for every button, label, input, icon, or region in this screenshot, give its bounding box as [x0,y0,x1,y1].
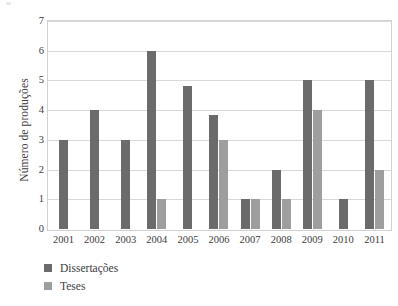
x-tick-label-2011: 2011 [359,233,390,246]
bar-teses-2007 [251,199,260,229]
bar-teses-2008 [282,199,291,229]
y-tick-label-4: 4 [22,104,44,115]
y-tick-label-5: 5 [22,74,44,85]
bar-dissertacoes-2001 [59,140,68,229]
x-tick-label-2001: 2001 [48,233,79,246]
x-tick-label-2008: 2008 [266,233,297,246]
bar-group-2003 [110,21,141,229]
bar-teses-2006 [219,140,228,229]
bar-dissertacoes-2002 [90,110,99,229]
x-tick-label-2002: 2002 [79,233,110,246]
bar-teses-2011 [375,170,384,229]
legend-swatch-teses [44,282,52,290]
legend-label: Teses [60,280,85,293]
y-tick-label-6: 6 [22,45,44,56]
x-tick-label-2007: 2007 [235,233,266,246]
x-tick-label-2003: 2003 [110,233,141,246]
bar-group-2001 [48,21,79,229]
bars-layer [48,21,390,229]
bar-group-2008 [266,21,297,229]
bar-dissertacoes-2011 [365,80,374,229]
bar-group-2002 [79,21,110,229]
y-tick-label-2: 2 [22,164,44,175]
bar-dissertacoes-2010 [339,199,348,229]
x-tick-label-2004: 2004 [141,233,172,246]
legend-item-teses[interactable]: Teses [44,277,118,295]
bar-teses-2004 [157,199,166,229]
bar-group-2009 [297,21,328,229]
bar-dissertacoes-2006 [209,115,218,229]
scan-artifact-speck [6,2,11,5]
y-tick-label-7: 7 [22,15,44,26]
legend-label: Dissertações [60,262,118,275]
x-tick-label-2005: 2005 [172,233,203,246]
bar-group-2005 [172,21,203,229]
bar-dissertacoes-2007 [241,199,250,229]
x-axis-tick-labels: 2001200220032004200520062007200820092010… [48,233,390,249]
bar-group-2011 [359,21,390,229]
x-tick-label-2006: 2006 [203,233,234,246]
chart-legend: DissertaçõesTeses [44,259,118,295]
bar-dissertacoes-2004 [147,51,156,229]
legend-swatch-dissertacoes [44,264,52,272]
x-tick-label-2010: 2010 [328,233,359,246]
bar-teses-2009 [313,110,322,229]
bar-group-2004 [141,21,172,229]
bar-dissertacoes-2009 [303,80,312,229]
legend-item-dissertaes[interactable]: Dissertações [44,259,118,277]
bar-chart-figure: Número de produções 01234567 20012002200… [0,0,398,306]
bar-dissertacoes-2008 [272,170,281,229]
y-tick-label-0: 0 [22,223,44,234]
x-tick-label-2009: 2009 [297,233,328,246]
y-tick-label-3: 3 [22,134,44,145]
bar-group-2006 [203,21,234,229]
bar-group-2010 [328,21,359,229]
bar-dissertacoes-2005 [183,86,192,229]
bar-dissertacoes-2003 [121,140,130,229]
bar-group-2007 [235,21,266,229]
y-tick-label-1: 1 [22,193,44,204]
